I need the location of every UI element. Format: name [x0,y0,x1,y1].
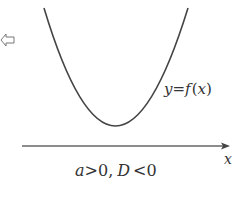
x-axis-label: x [224,151,232,167]
x-axis [22,143,230,150]
parabola-diagram: x y=f(x) a>0,D<0 [0,0,242,200]
condition-caption: a>0,D<0 [75,161,157,180]
left-arrow-outline-icon [1,34,14,46]
curve-label: y=f(x) [163,80,212,98]
parabola-curve [44,8,188,126]
